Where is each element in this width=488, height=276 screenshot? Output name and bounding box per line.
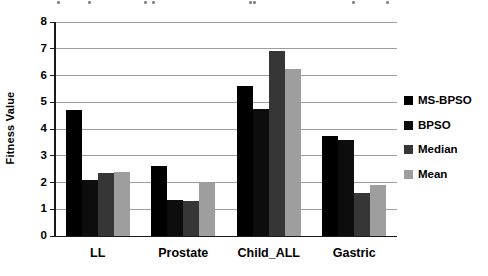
bar-group-Prostate	[151, 166, 215, 236]
y-tick-8	[50, 22, 54, 23]
cropped-text-fragment	[88, 1, 91, 4]
legend-label: Median	[418, 144, 458, 156]
legend-item-BPSO: BPSO	[404, 120, 472, 132]
bar-Prostate-BPSO	[167, 200, 183, 236]
bar-group-Child_ALL	[237, 51, 301, 236]
y-tick-label-5: 5	[41, 97, 47, 109]
y-tick-label-4: 4	[41, 123, 47, 135]
bar-LL-Mean	[114, 172, 130, 236]
bar-LL-Median	[98, 173, 114, 236]
gridline-8	[55, 22, 397, 23]
y-tick-3	[50, 155, 54, 156]
bar-Prostate-Mean	[199, 183, 215, 237]
legend: MS-BPSOBPSOMedianMean	[404, 95, 472, 180]
cropped-text-fragment	[253, 1, 256, 4]
legend-label: BPSO	[418, 120, 451, 132]
y-tick-label-0: 0	[41, 230, 47, 242]
y-tick-label-8: 8	[41, 16, 47, 28]
gridline-5	[55, 102, 397, 103]
y-tick-label-3: 3	[41, 150, 47, 162]
bar-Child_ALL-Mean	[285, 69, 301, 236]
legend-swatch-icon	[404, 121, 413, 130]
legend-label: MS-BPSO	[418, 95, 472, 107]
cropped-text-fragment	[144, 1, 147, 4]
bar-Gastric-Mean	[370, 185, 386, 236]
y-tick-label-7: 7	[41, 43, 47, 55]
cropped-text-fragment	[352, 1, 355, 4]
bar-LL-MS-BPSO	[66, 110, 82, 236]
cropped-text-fragment	[57, 1, 60, 4]
y-tick-5	[50, 102, 54, 103]
y-tick-1	[50, 209, 54, 210]
bar-Child_ALL-BPSO	[253, 109, 269, 236]
bar-Prostate-MS-BPSO	[151, 166, 167, 236]
legend-item-Median: Median	[404, 144, 472, 156]
bar-Child_ALL-MS-BPSO	[237, 86, 253, 236]
x-tick-label-LL: LL	[90, 246, 105, 260]
cropped-text-fragment	[386, 1, 389, 4]
bar-Gastric-Median	[354, 193, 370, 236]
legend-swatch-icon	[404, 145, 413, 154]
y-axis-title: Fitness Value	[4, 63, 16, 193]
y-tick-7	[50, 48, 54, 49]
bar-group-LL	[66, 110, 130, 236]
x-tick-label-Gastric: Gastric	[333, 246, 376, 260]
legend-label: Mean	[418, 169, 447, 181]
bar-Gastric-BPSO	[338, 140, 354, 236]
y-tick-label-6: 6	[41, 70, 47, 82]
y-axis-line	[54, 22, 56, 236]
legend-item-MS-BPSO: MS-BPSO	[404, 95, 472, 107]
bar-Prostate-Median	[183, 201, 199, 236]
legend-swatch-icon	[404, 170, 413, 179]
y-tick-0	[50, 236, 54, 237]
gridline-6	[55, 75, 397, 76]
bar-Gastric-MS-BPSO	[322, 136, 338, 236]
chart-figure: Fitness Value 012345678 LLProstateChild_…	[0, 0, 488, 276]
cropped-text-fragment	[249, 1, 252, 4]
bar-LL-BPSO	[82, 180, 98, 236]
y-tick-2	[50, 182, 54, 183]
bar-group-Gastric	[322, 136, 386, 236]
y-tick-6	[50, 75, 54, 76]
y-tick-label-1: 1	[41, 204, 47, 216]
cropped-text-fragment	[152, 1, 155, 4]
y-tick-4	[50, 129, 54, 130]
y-tick-label-2: 2	[41, 177, 47, 189]
bar-Child_ALL-Median	[269, 51, 285, 236]
x-tick-label-Child_ALL: Child_ALL	[238, 246, 301, 260]
legend-item-Mean: Mean	[404, 169, 472, 181]
legend-swatch-icon	[404, 96, 413, 105]
x-tick-label-Prostate: Prostate	[158, 246, 208, 260]
gridline-7	[55, 48, 397, 49]
plot-area: 012345678 LLProstateChild_ALLGastric	[55, 22, 397, 236]
